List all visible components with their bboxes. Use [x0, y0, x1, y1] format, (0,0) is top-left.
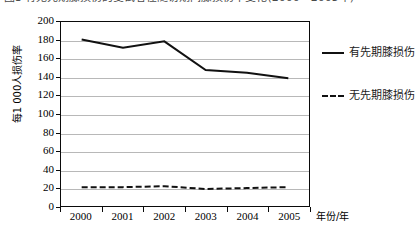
- x-axis-tick-mark: [143, 207, 144, 212]
- y-axis-tick-label: 200: [20, 15, 54, 26]
- y-axis-tick-label: 160: [20, 52, 54, 63]
- x-axis-title: 年份/年: [316, 211, 349, 223]
- x-axis-tick-label: 2002: [144, 210, 184, 222]
- series-line: [82, 186, 289, 189]
- y-axis-tick-label: 60: [20, 145, 54, 156]
- y-axis-tick-label: 20: [20, 182, 54, 193]
- series-line: [82, 40, 289, 79]
- y-axis-tick-label: 80: [20, 127, 54, 138]
- x-axis-tick-mark: [102, 207, 103, 212]
- series-lines: [61, 22, 309, 207]
- y-axis-tick-label: 100: [20, 108, 54, 119]
- legend-item[interactable]: 无先期膝损伤: [322, 89, 414, 102]
- x-axis-tick-mark: [227, 207, 228, 212]
- y-axis-tick-label: 40: [20, 164, 54, 175]
- x-axis-tick-label: 2004: [228, 210, 268, 222]
- chart-legend: 有先期膝损伤无先期膝损伤: [322, 46, 414, 132]
- x-axis-tick-mark: [310, 207, 311, 212]
- x-axis-tick-label: 2005: [269, 210, 309, 222]
- dashed-line-icon: [322, 95, 344, 97]
- plot-area: [60, 21, 310, 207]
- solid-line-icon: [322, 52, 344, 54]
- legend-item-label: 无先期膝损伤: [349, 89, 415, 102]
- x-axis-tick-label: 2001: [103, 210, 143, 222]
- legend-item[interactable]: 有先期膝损伤: [322, 46, 414, 59]
- y-axis-tick-label: 120: [20, 89, 54, 100]
- y-axis-tick-label: 180: [20, 34, 54, 45]
- x-axis-tick-mark: [185, 207, 186, 212]
- x-axis-tick-mark: [60, 207, 61, 212]
- x-axis-tick-label: 2000: [61, 210, 101, 222]
- y-axis-tick-label: 0: [20, 201, 54, 212]
- x-axis-tick-label: 2003: [186, 210, 226, 222]
- chart-figure: 图3 有无先期膝损伤的受试者在随访期间膝损伤率变化(2000—2005年) 每1…: [0, 0, 415, 248]
- x-axis-tick-mark: [268, 207, 269, 212]
- figure-caption: 图3 有无先期膝损伤的受试者在随访期间膝损伤率变化(2000—2005年): [4, 0, 404, 5]
- legend-item-label: 有先期膝损伤: [349, 46, 415, 59]
- y-axis-tick-label: 140: [20, 71, 54, 82]
